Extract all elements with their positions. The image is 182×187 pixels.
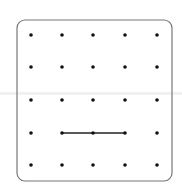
grid-dot <box>155 163 159 167</box>
grid-dot <box>29 163 33 167</box>
grid-dot <box>29 98 33 102</box>
grid-dot <box>29 65 33 69</box>
grid-dot <box>91 65 95 69</box>
grid-dot <box>123 131 127 135</box>
grid-dot <box>91 163 95 167</box>
grid-dot <box>123 163 127 167</box>
grid-dot <box>60 98 64 102</box>
grid-dot <box>123 65 127 69</box>
grid-dot <box>155 65 159 69</box>
geoboard <box>0 0 182 187</box>
grid-dot <box>29 131 33 135</box>
grid-dot <box>60 65 64 69</box>
grid-dot <box>91 33 95 37</box>
grid-dot <box>60 131 64 135</box>
grid-dot <box>155 131 159 135</box>
grid-dot <box>123 33 127 37</box>
grid-dot <box>60 163 64 167</box>
grid-dot <box>91 98 95 102</box>
grid-dot <box>155 98 159 102</box>
grid-dot <box>29 33 33 37</box>
grid-dot <box>60 33 64 37</box>
grid-dot <box>123 98 127 102</box>
grid-dot <box>155 33 159 37</box>
grid-dot <box>91 131 95 135</box>
